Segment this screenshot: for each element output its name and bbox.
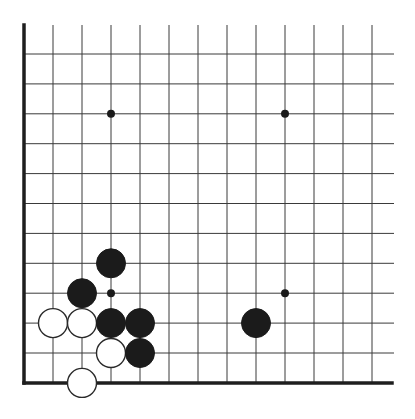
black-stone bbox=[97, 249, 126, 278]
white-stone bbox=[97, 339, 126, 368]
star-point-icon bbox=[281, 110, 289, 118]
black-stone bbox=[126, 309, 155, 338]
white-stone bbox=[68, 309, 97, 338]
star-point-icon bbox=[107, 289, 115, 297]
black-stone bbox=[97, 309, 126, 338]
black-stone bbox=[242, 309, 271, 338]
star-point-icon bbox=[107, 110, 115, 118]
black-stone bbox=[68, 279, 97, 308]
go-board bbox=[0, 0, 415, 419]
black-stone bbox=[126, 339, 155, 368]
white-stone bbox=[68, 368, 97, 397]
star-point-icon bbox=[281, 289, 289, 297]
white-stone bbox=[39, 309, 68, 338]
